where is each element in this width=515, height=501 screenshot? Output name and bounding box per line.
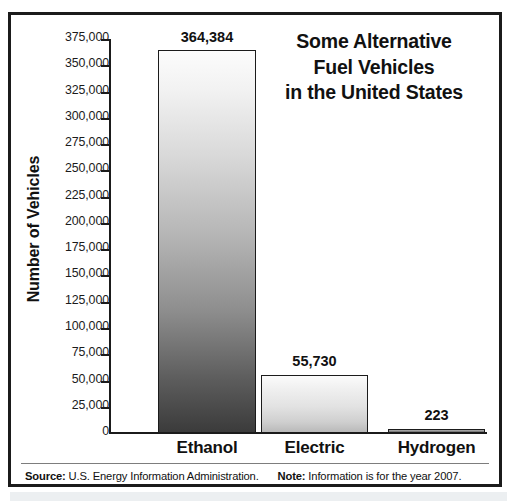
y-tick-mark [101,354,111,356]
footnote-divider [21,463,489,464]
y-tick-mark [101,118,111,120]
x-label-hydrogen: Hydrogen [388,438,485,458]
y-tick-mark [101,328,111,330]
y-tick-label: 200,000 [65,214,109,228]
chart-title-line-2: Fuel Vehicles [253,55,495,81]
y-tick-mark [101,302,111,304]
y-tick-label: 0 [102,424,109,438]
footnote: Source: U.S. Energy Information Administ… [25,470,461,482]
y-tick-mark [101,197,111,199]
chart-title-line-1: Some Alternative [253,29,495,55]
y-axis-label: Number of Vehicles [25,129,43,329]
bar-hydrogen[interactable] [388,429,485,434]
x-label-electric: Electric [261,438,368,458]
y-tick-label: 25,000 [72,398,109,412]
y-tick-label: 125,000 [65,293,109,307]
y-tick-label: 225,000 [65,188,109,202]
y-tick-mark [101,65,111,67]
y-tick-mark [101,144,111,146]
y-tick-label: 300,000 [65,109,109,123]
y-tick-label: 275,000 [65,135,109,149]
bar-value-electric: 55,730 [261,353,368,369]
chart-title: Some Alternative Fuel Vehicles in the Un… [253,29,495,106]
y-tick-label: 75,000 [72,345,109,359]
y-tick-mark [101,381,111,383]
y-tick-label: 100,000 [65,319,109,333]
y-tick-label: 375,000 [65,30,109,44]
y-tick-mark [101,275,111,277]
plot-area: Some Alternative Fuel Vehicles in the Un… [11,15,505,490]
y-tick-label: 175,000 [65,240,109,254]
bar-electric[interactable] [261,375,368,434]
y-tick-label: 150,000 [65,266,109,280]
note-label: Note: [278,470,306,482]
source-text: U.S. Energy Information Administration. [69,470,259,482]
bar-value-ethanol: 364,384 [158,29,256,45]
x-label-ethanol: Ethanol [158,438,256,458]
y-tick-mark [101,249,111,251]
bar-value-hydrogen: 223 [388,407,485,423]
y-tick-label: 325,000 [65,83,109,97]
chart-title-line-3: in the United States [253,80,495,106]
note-text: Information is for the year 2007. [308,470,461,482]
y-tick-label: 250,000 [65,161,109,175]
y-tick-label: 50,000 [72,372,109,386]
y-tick-mark [101,92,111,94]
chart-figure: Some Alternative Fuel Vehicles in the Un… [8,12,502,487]
source-label: Source: [25,470,66,482]
y-axis-line [109,39,111,434]
bar-ethanol[interactable] [158,50,256,433]
y-tick-mark [101,170,111,172]
y-tick-label: 350,000 [65,56,109,70]
y-tick-mark [101,407,111,409]
y-tick-mark [101,223,111,225]
page-bottom-strip [10,492,507,501]
y-tick-mark [101,39,111,41]
